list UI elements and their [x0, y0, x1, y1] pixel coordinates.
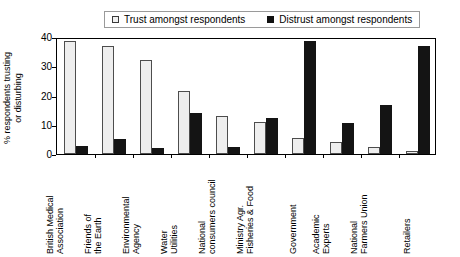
filled-square-marker-icon	[267, 16, 274, 23]
bar-trust	[292, 138, 304, 154]
x-axis-category-label-line: National	[349, 194, 359, 254]
bar-trust	[368, 147, 380, 154]
bars-container	[57, 39, 435, 154]
bar-group	[209, 39, 247, 154]
x-axis-category-label-line: consumers council	[207, 179, 217, 254]
chart-legend: Trust amongst respondents Distrust among…	[104, 11, 420, 28]
bar-group	[361, 39, 399, 154]
bar-distrust	[342, 123, 354, 154]
x-axis-category-label-line: Academic	[311, 214, 321, 254]
y-axis-tick-mark	[52, 126, 56, 127]
x-axis-category-label-line: Farmers Union	[359, 194, 369, 254]
bar-trust	[140, 60, 152, 154]
x-axis-category-label-line: Environmental	[121, 196, 131, 254]
bar-distrust	[228, 147, 240, 154]
legend-entry-trust: Trust amongst respondents	[112, 15, 245, 25]
x-axis-category-label-line: Association	[55, 195, 65, 254]
bar-distrust	[380, 105, 392, 154]
x-axis-category-label-line: British Medical	[45, 195, 55, 254]
y-axis-title-line-1: % respondents trusting	[2, 52, 13, 144]
bar-trust	[330, 142, 342, 154]
x-axis-category-label-line: the Earth	[93, 214, 103, 254]
x-axis-labels: British MedicalAssociationFriends ofthe …	[56, 156, 436, 256]
bar-group	[247, 39, 285, 154]
legend-label-trust: Trust amongst respondents	[124, 15, 245, 25]
x-axis-category-label-line: Ministry Agr.	[235, 186, 245, 254]
x-axis-category-label-line: Agency	[131, 196, 141, 254]
y-axis-tick-label: 20	[30, 92, 52, 102]
bar-trust	[254, 122, 266, 154]
bar-distrust	[152, 148, 164, 154]
plot-area	[56, 38, 436, 155]
y-axis-tick-mark	[52, 38, 56, 39]
bar-group	[95, 39, 133, 154]
bar-distrust	[418, 46, 430, 154]
open-square-marker-icon	[112, 16, 119, 23]
bar-trust	[178, 91, 190, 154]
y-axis-tick-mark	[52, 155, 56, 156]
x-axis-category-label-line: Government	[288, 204, 298, 254]
x-axis-category-label-line: Fisheries & Food	[245, 186, 255, 254]
bar-group	[399, 39, 437, 154]
bar-distrust	[76, 146, 88, 154]
bar-group	[285, 39, 323, 154]
x-axis-category-label: Retailers	[398, 156, 436, 254]
x-axis-category-label-line: Retailers	[402, 218, 412, 254]
bar-distrust	[114, 139, 126, 155]
bar-distrust	[190, 113, 202, 154]
x-axis-category-label-line: Water	[159, 225, 169, 254]
bar-distrust	[266, 118, 278, 154]
x-axis-category-label-line: Utilities	[169, 225, 179, 254]
y-axis-tick-mark	[52, 97, 56, 98]
legend-entry-distrust: Distrust amongst respondents	[267, 15, 412, 25]
bar-group	[57, 39, 95, 154]
bar-trust	[216, 116, 228, 154]
bar-trust	[102, 46, 114, 154]
bar-group	[171, 39, 209, 154]
y-axis-tick-mark	[52, 67, 56, 68]
bar-group	[133, 39, 171, 154]
bar-group	[323, 39, 361, 154]
bar-distrust	[304, 41, 316, 154]
x-axis-category-label: NationalFarmers Union	[360, 156, 398, 254]
bar-chart: Trust amongst respondents Distrust among…	[0, 0, 460, 257]
y-axis-title: % respondents trusting or disturbing	[0, 38, 26, 158]
legend-label-distrust: Distrust amongst respondents	[279, 15, 412, 25]
x-axis-category-label: Ministry Agr.Fisheries & Food	[246, 156, 284, 254]
y-axis-title-line-2: or disturbing	[13, 52, 24, 144]
y-axis-tick-label: 0	[30, 150, 52, 160]
y-axis-tick-label: 30	[30, 62, 52, 72]
x-axis-category-label-line: Friends of	[83, 214, 93, 254]
bar-trust	[64, 41, 76, 154]
y-axis-tick-label: 40	[30, 33, 52, 43]
x-axis-category-label-line: National	[197, 179, 207, 254]
x-axis-category-label-line: Experts	[321, 214, 331, 254]
y-axis-tick-label: 10	[30, 121, 52, 131]
bar-trust	[406, 151, 418, 154]
